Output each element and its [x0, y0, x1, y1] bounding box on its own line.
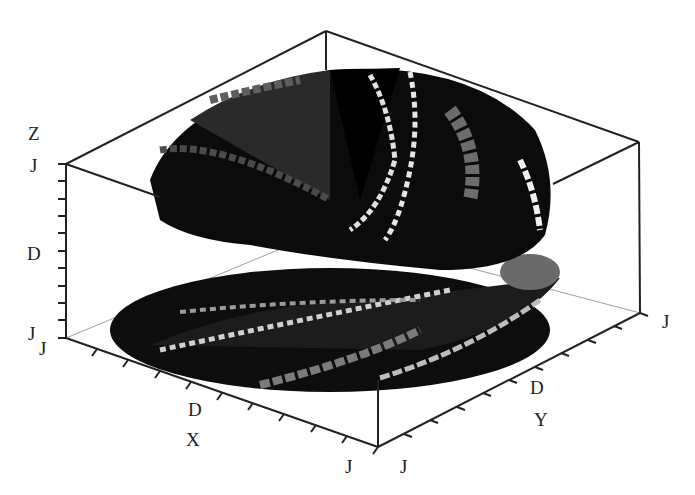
y-axis-label: Y: [534, 410, 548, 429]
z-axis-ticks: [58, 164, 66, 338]
z-tick-bottom: J: [28, 324, 35, 343]
x-axis-label: X: [186, 430, 200, 449]
y-tick-mid: D: [530, 378, 544, 397]
surface-lower-sheet: [110, 254, 560, 392]
z-tick-mid: D: [27, 244, 41, 263]
z-tick-top: J: [30, 156, 37, 175]
x-tick-mid: D: [188, 400, 202, 419]
y-tick-end: J: [662, 312, 669, 331]
z-axis-label: Z: [28, 124, 40, 143]
x-tick-start: J: [39, 339, 46, 358]
surface-upper-sheet: [150, 68, 551, 270]
y-tick-start: J: [400, 457, 407, 476]
surface-plot: [0, 0, 695, 495]
x-tick-end: J: [345, 457, 352, 476]
